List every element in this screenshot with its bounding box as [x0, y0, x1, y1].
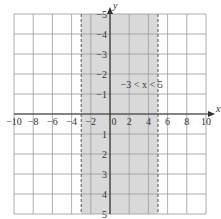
y-tick-label: −2: [96, 69, 107, 80]
inequality-annotation: −3 < x < 5: [121, 79, 163, 90]
x-tick-label: −8: [28, 116, 39, 127]
coordinate-plane: −10−8−6−4−2024681054321−1−2−3−4−5 x y −3…: [0, 0, 221, 219]
x-tick-label: −10: [6, 116, 22, 127]
y-tick-label: 2: [102, 149, 107, 160]
x-tick-label: 2: [127, 116, 132, 127]
y-tick-label: −4: [96, 29, 107, 40]
y-tick-label: −1: [96, 89, 107, 100]
y-tick-label: −3: [96, 49, 107, 60]
y-tick-label: 4: [102, 189, 107, 200]
x-tick-label: 0: [112, 116, 117, 127]
y-tick-label: 5: [102, 209, 107, 219]
y-tick-label: −5: [96, 9, 107, 20]
y-tick-label: 1: [102, 129, 107, 140]
x-tick-label: −2: [85, 116, 96, 127]
x-tick-label: 4: [146, 116, 151, 127]
x-tick-label: 10: [201, 116, 211, 127]
x-tick-label: −4: [66, 116, 77, 127]
x-tick-label: 8: [184, 116, 189, 127]
x-tick-label: −6: [47, 116, 58, 127]
y-axis-label: y: [112, 0, 118, 11]
x-axis-label: x: [215, 103, 221, 114]
x-tick-label: 6: [165, 116, 170, 127]
y-tick-label: 3: [102, 169, 107, 180]
